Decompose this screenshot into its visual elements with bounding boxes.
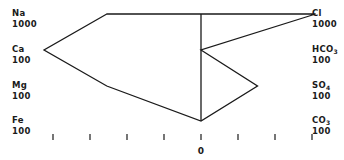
stiff-polygon (44, 14, 316, 121)
zero-label: 0 (198, 146, 204, 156)
stiff-diagram: 0 (0, 0, 344, 160)
